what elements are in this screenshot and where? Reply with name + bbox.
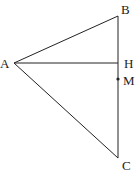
label-M: M <box>123 73 135 88</box>
label-A: A <box>0 56 10 71</box>
triangle-diagram: A B H M C <box>0 0 137 175</box>
segment-AB <box>14 16 118 63</box>
label-B: B <box>121 2 130 17</box>
label-H: H <box>124 56 133 71</box>
label-C: C <box>122 158 131 173</box>
segments <box>14 16 118 158</box>
point-markers <box>116 77 119 80</box>
segment-AC <box>14 63 118 158</box>
point-M-marker <box>116 77 119 80</box>
